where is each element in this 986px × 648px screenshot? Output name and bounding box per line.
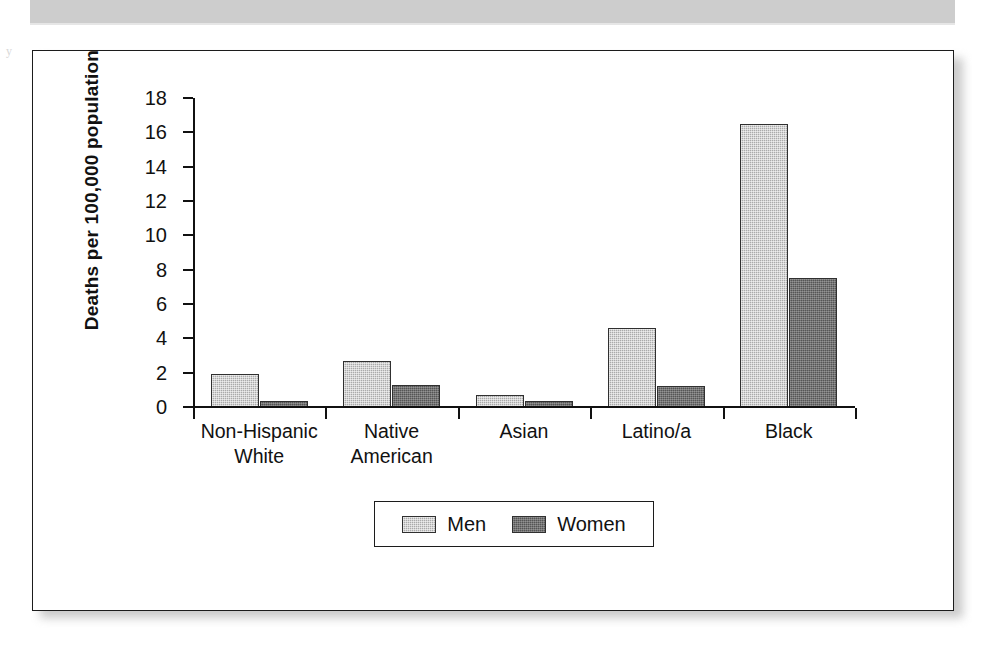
y-tick-label-12: 12	[125, 191, 167, 211]
x-tick-mark-3	[590, 408, 592, 419]
bar-men-latino-a	[608, 328, 656, 407]
page-header-band	[30, 0, 955, 23]
y-tick-mark-2	[183, 372, 193, 374]
y-axis-title: Deaths per 100,000 population	[81, 35, 103, 345]
x-tick-mark-5	[855, 408, 857, 419]
y-tick-label-16: 16	[125, 122, 167, 142]
x-category-label-non-hispanic-white: Non-HispanicWhite	[193, 419, 325, 469]
y-tick-label-0: 0	[125, 397, 167, 417]
x-axis-category-labels: Non-HispanicWhiteNativeAmericanAsianLati…	[193, 419, 855, 481]
y-tick-label-14: 14	[125, 157, 167, 177]
x-category-label-line: Black	[723, 419, 855, 444]
y-tick-mark-18	[183, 97, 193, 99]
y-tick-mark-16	[183, 131, 193, 133]
legend-label-women: Women	[557, 513, 626, 536]
legend-label-men: Men	[447, 513, 486, 536]
x-axis-line	[193, 406, 855, 408]
y-axis-tick-labels: 181614121086420	[125, 98, 167, 406]
bar-women-native-american	[392, 385, 440, 407]
y-tick-mark-0	[183, 406, 193, 408]
y-tick-label-4: 4	[125, 328, 167, 348]
bar-men-native-american	[343, 361, 391, 407]
bar-series-layer	[193, 98, 855, 407]
scanned-chart-page: { "page": { "side_mark": "y", "header_ba…	[0, 0, 986, 648]
x-tick-mark-1	[325, 408, 327, 419]
y-tick-mark-8	[183, 269, 193, 271]
y-tick-mark-4	[183, 337, 193, 339]
chart-figure: Deaths per 100,000 population 1816141210…	[32, 50, 954, 611]
y-tick-mark-10	[183, 234, 193, 236]
x-category-label-native-american: NativeAmerican	[325, 419, 457, 469]
plot-area: Deaths per 100,000 population 1816141210…	[33, 51, 953, 610]
y-tick-mark-6	[183, 303, 193, 305]
y-tick-mark-14	[183, 166, 193, 168]
bar-men-black	[740, 124, 788, 407]
bar-women-latino-a	[657, 386, 705, 407]
bar-men-non-hispanic-white	[211, 374, 259, 407]
x-category-label-black: Black	[723, 419, 855, 444]
x-category-label-line: Native	[325, 419, 457, 444]
x-category-label-line: Asian	[458, 419, 590, 444]
y-tick-label-2: 2	[125, 363, 167, 383]
y-tick-mark-12	[183, 200, 193, 202]
x-category-label-asian: Asian	[458, 419, 590, 444]
y-tick-label-6: 6	[125, 294, 167, 314]
y-tick-label-8: 8	[125, 260, 167, 280]
legend-swatch-men	[402, 516, 436, 533]
chart-legend: MenWomen	[374, 501, 654, 547]
x-tick-mark-2	[458, 408, 460, 419]
bar-women-black	[789, 278, 837, 407]
y-tick-label-10: 10	[125, 225, 167, 245]
x-tick-mark-4	[723, 408, 725, 419]
legend-item-women: Women	[512, 513, 626, 536]
legend-item-men: Men	[402, 513, 486, 536]
x-category-label-line: American	[325, 444, 457, 469]
x-category-label-line: Non-Hispanic	[193, 419, 325, 444]
page-side-mark: y	[6, 44, 12, 59]
x-category-label-latino-a: Latino/a	[590, 419, 722, 444]
y-tick-label-18: 18	[125, 88, 167, 108]
x-category-label-line: Latino/a	[590, 419, 722, 444]
x-category-label-line: White	[193, 444, 325, 469]
legend-swatch-women	[512, 516, 546, 533]
x-tick-mark-0	[193, 408, 195, 419]
